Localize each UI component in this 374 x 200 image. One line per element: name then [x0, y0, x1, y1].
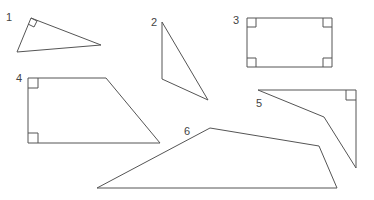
shape-1-outline — [17, 18, 101, 52]
right-angle-marker-icon — [28, 133, 38, 143]
shape-3-outline — [247, 18, 332, 67]
shape-2-label: 2 — [151, 17, 157, 28]
shape-4-outline — [28, 78, 160, 143]
shape-1-label: 1 — [6, 12, 12, 23]
shapes-svg — [0, 0, 374, 200]
shape-1 — [17, 18, 101, 52]
right-angle-marker-icon — [323, 58, 332, 67]
shape-3-label: 3 — [233, 15, 239, 26]
right-angle-marker-icon — [346, 90, 356, 100]
shape-4-label: 4 — [16, 73, 22, 84]
shape-6 — [97, 128, 337, 188]
shape-2 — [162, 22, 208, 100]
shape-5-outline — [258, 90, 356, 168]
shape-5 — [258, 90, 356, 168]
shape-6-label: 6 — [184, 126, 190, 137]
right-angle-marker-icon — [323, 18, 332, 27]
shape-2-outline — [162, 22, 208, 100]
shape-4 — [28, 78, 160, 143]
shape-3 — [247, 18, 332, 67]
geometry-figure: 1 2 3 4 5 6 — [0, 0, 374, 200]
shape-5-label: 5 — [256, 98, 262, 109]
right-angle-marker-icon — [247, 18, 256, 27]
right-angle-marker-icon — [247, 58, 256, 67]
shape-6-outline — [97, 128, 337, 188]
right-angle-marker-icon — [28, 78, 38, 88]
